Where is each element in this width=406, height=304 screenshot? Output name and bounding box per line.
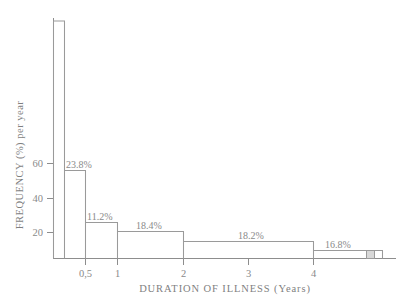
y-tick-label-20: 20 bbox=[33, 227, 44, 238]
x-tick-label-0-5: 0,5 bbox=[79, 268, 92, 279]
bar-data-label-3: 18.4% bbox=[136, 220, 162, 231]
histogram-bar-5 bbox=[184, 242, 314, 259]
x-tick-label-1: 1 bbox=[115, 268, 120, 279]
bar-data-label-2: 11.2% bbox=[87, 211, 112, 222]
figure-histogram-duration-of-illness: 60 40 20 0,5 1 2 3 4 23.8% 11.2% 18.4% 1… bbox=[0, 0, 406, 304]
y-tick-label-60: 60 bbox=[33, 158, 44, 169]
x-tick-label-3: 3 bbox=[246, 268, 251, 279]
y-tick-label-40: 40 bbox=[33, 193, 44, 204]
histogram-bar-4 bbox=[118, 232, 184, 259]
x-tick-label-4: 4 bbox=[311, 268, 317, 279]
chart-canvas: 60 40 20 0,5 1 2 3 4 23.8% 11.2% 18.4% 1… bbox=[0, 0, 406, 304]
bar-data-label-1: 23.8% bbox=[66, 159, 92, 170]
x-tick-label-2: 2 bbox=[181, 268, 186, 279]
histogram-bar-1 bbox=[54, 21, 65, 259]
x-axis-title: DURATION OF ILLNESS (Years) bbox=[139, 283, 311, 295]
bar-data-label-5: 16.8% bbox=[325, 239, 351, 250]
y-axis-title: FREQUENCY (%) per year bbox=[14, 101, 26, 230]
bar-data-label-4: 18.2% bbox=[238, 230, 264, 241]
histogram-bar-3 bbox=[86, 223, 118, 259]
histogram-open-end-marker bbox=[367, 251, 375, 259]
histogram-bar-2 bbox=[65, 171, 86, 259]
